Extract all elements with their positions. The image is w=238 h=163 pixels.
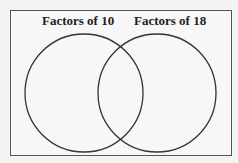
circle-factors-of-10 (25, 34, 143, 152)
label-factors-of-10: Factors of 10 (42, 13, 114, 29)
circle-factors-of-18 (98, 34, 216, 152)
label-factors-of-18: Factors of 18 (134, 13, 206, 29)
